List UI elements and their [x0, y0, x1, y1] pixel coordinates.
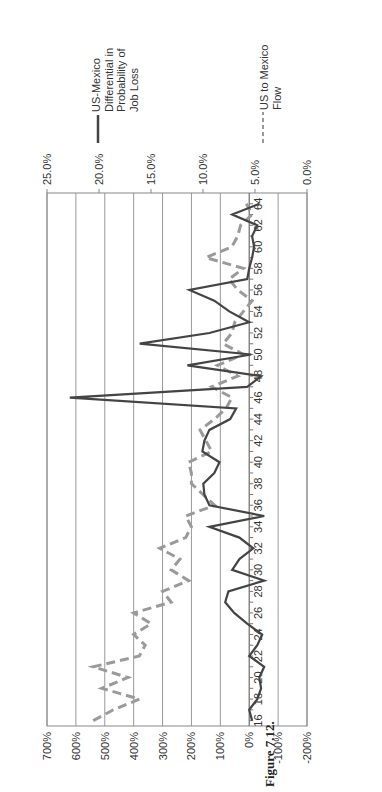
x-axis-tick-label: 50	[252, 348, 264, 360]
left-axis-tick-label: 700%	[41, 732, 53, 760]
x-axis-tick-label: 40	[252, 456, 264, 468]
right-axis-tick-label: 25.0%	[41, 154, 53, 185]
x-axis-tick-label: 44	[252, 413, 264, 425]
x-axis-tick-label: 52	[252, 327, 264, 339]
x-axis-tick-label: 54	[252, 305, 264, 317]
legend-label-differential: US-MexicoDifferential inProbability ofJo…	[90, 47, 140, 112]
right-axis-ticks: 0.0%5.0%10.0%15.0%20.0%25.0%	[41, 154, 313, 193]
left-axis-tick-label: -200%	[301, 732, 313, 764]
left-axis-tick-label: 0%	[243, 732, 255, 748]
x-axis-tick-label: 28	[252, 585, 264, 597]
left-axis-tick-label: 300%	[157, 732, 169, 760]
x-axis-tick-label: 30	[252, 564, 264, 576]
x-axis-tick-label: 38	[252, 478, 264, 490]
differential-job-loss-line	[70, 204, 264, 721]
right-axis-tick-label: 10.0%	[197, 154, 209, 185]
x-axis-tick-label: 56	[252, 284, 264, 296]
figure-caption: Figure 7.12.	[262, 707, 278, 787]
legend-label-flow: US to MexicoFlow	[258, 45, 283, 110]
left-axis-tick-label: 100%	[214, 732, 226, 760]
right-axis-tick-label: 0.0%	[301, 160, 313, 185]
x-axis-tick-label: 36	[252, 499, 264, 511]
us-to-mexico-flow-line	[93, 204, 252, 721]
x-axis-tick-label: 26	[252, 607, 264, 619]
left-axis-tick-label: 500%	[99, 732, 111, 760]
rotated-line-chart: -200%-100%0%100%200%300%400%500%600%700%…	[0, 0, 382, 792]
right-axis-tick-label: 15.0%	[145, 154, 157, 185]
x-axis-tick-label: 34	[252, 521, 264, 533]
right-axis-tick-label: 5.0%	[249, 160, 261, 185]
x-axis-tick-label: 58	[252, 262, 264, 274]
x-axis-tick-label: 46	[252, 391, 264, 403]
left-axis-tick-label: 400%	[128, 732, 140, 760]
right-axis-tick-label: 20.0%	[93, 154, 105, 185]
plot-area-border	[47, 193, 307, 726]
left-axis-tick-label: 600%	[70, 732, 82, 760]
gridlines	[47, 193, 307, 726]
left-axis-tick-label: 200%	[185, 732, 197, 760]
x-axis-tick-label: 42	[252, 435, 264, 447]
legend: US-MexicoDifferential inProbability ofJo…	[90, 45, 283, 143]
